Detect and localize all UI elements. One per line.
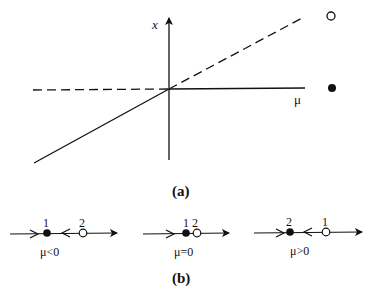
- open-circle-legend-icon: [327, 12, 335, 20]
- point-label: 2: [79, 216, 85, 231]
- condition-label: μ<0: [40, 245, 59, 260]
- point-label: 1 2: [183, 216, 198, 231]
- caption-a: (a): [172, 183, 190, 200]
- unstable-branch-xmu-right: [169, 17, 304, 89]
- panel-a-diagram: [33, 12, 336, 163]
- stable-branch-x0-right: [169, 88, 305, 89]
- filled-circle-legend-icon: [328, 84, 336, 92]
- horizontal-axis-label: μ: [294, 92, 301, 108]
- unstable-branch-x0-left: [33, 89, 169, 90]
- point-label: 1: [43, 216, 49, 231]
- phase-line-mu-negative: [10, 229, 117, 238]
- condition-label: μ=0: [174, 245, 193, 260]
- point-label: 1: [322, 215, 328, 230]
- vertical-axis-label: x: [152, 17, 158, 33]
- condition-label: μ>0: [290, 244, 309, 259]
- point-label: 2: [286, 215, 292, 230]
- stable-branch-xmu-left: [34, 89, 169, 163]
- phase-line-mu-positive: [254, 228, 362, 237]
- caption-b: (b): [172, 270, 190, 287]
- transcritical-bifurcation-figure: x μ (a) 1 2 μ<0 1 2 μ=0 2 1 μ>0 (b): [0, 0, 376, 303]
